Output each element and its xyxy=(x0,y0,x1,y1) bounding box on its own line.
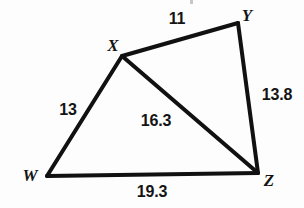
segment-wz xyxy=(47,173,258,176)
length-label-wz: 19.3 xyxy=(137,184,167,200)
vertex-label-z: Z xyxy=(264,172,274,189)
segment-yz xyxy=(238,23,258,173)
quadrilateral-diagram xyxy=(0,0,304,208)
vertex-label-w: W xyxy=(22,167,37,184)
geometry-figure: W X Y Z 13 11 13.8 19.3 16.3 xyxy=(0,0,304,208)
length-label-wx: 13 xyxy=(59,102,76,118)
scan-artifact-speck xyxy=(190,0,193,4)
length-label-yz: 13.8 xyxy=(262,87,292,103)
vertex-label-y: Y xyxy=(242,7,252,24)
length-label-xy: 11 xyxy=(169,11,186,27)
segment-xy xyxy=(122,23,238,56)
segment-wx xyxy=(47,56,122,176)
vertex-label-x: X xyxy=(107,37,118,54)
length-label-xz: 16.3 xyxy=(141,113,171,129)
